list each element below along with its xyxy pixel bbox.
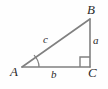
side-label-a: a: [93, 35, 99, 46]
right-triangle-figure: A B C a b c: [0, 0, 108, 89]
side-label-b: b: [51, 69, 57, 80]
vertex-label-a: A: [10, 65, 18, 78]
vertex-label-c: C: [88, 66, 97, 79]
vertex-label-b: B: [87, 3, 95, 16]
side-label-c: c: [43, 34, 48, 45]
